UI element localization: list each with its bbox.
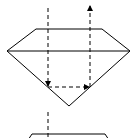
second-diamond-partial [28,112,109,138]
light-ray [48,6,90,87]
diamond-light-path-diagram [0,0,137,138]
diamond-shape [7,29,130,106]
